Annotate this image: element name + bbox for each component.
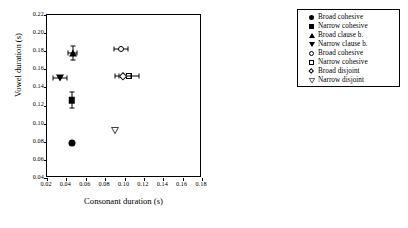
data-point-triangle-down-filled [56, 74, 64, 81]
x-axis-tick-labels: 0.020.040.060.080.100.120.140.160.18 [0, 181, 408, 193]
legend-item-label: Narrow cohesive [318, 23, 368, 30]
data-point-circle-open [118, 46, 124, 52]
legend-item: Broad cohesive [298, 49, 399, 58]
legend-item-label: Broad cohesive [318, 14, 363, 21]
x-error-cap [67, 75, 68, 80]
x-error-cap [128, 46, 129, 51]
square-filled-icon [305, 24, 318, 29]
square-open-icon [305, 60, 318, 65]
y-tick-mark [44, 33, 47, 34]
y-tick-label: 0.06 [33, 156, 44, 162]
plot-area [46, 14, 201, 177]
legend-item-label: Narrow cohesive [318, 59, 368, 66]
x-tick-label: 0.10 [118, 181, 129, 187]
x-tick-label: 0.18 [195, 181, 206, 187]
x-tick-mark [86, 178, 87, 181]
legend-item-label: Narrow clause b. [318, 41, 368, 48]
y-error-cap [70, 60, 75, 61]
x-tick-label: 0.14 [157, 181, 168, 187]
data-point-triangle-down-open [115, 131, 123, 138]
y-error-cap [69, 108, 74, 109]
triangle-up-filled-icon [305, 33, 318, 38]
legend-item: Narrow clause b. [298, 40, 399, 49]
x-axis-title: Consonant duration (s) [46, 196, 201, 206]
x-tick-label: 0.12 [137, 181, 148, 187]
x-tick-label: 0.06 [79, 181, 90, 187]
x-tick-label: 0.16 [176, 181, 187, 187]
legend-item: Broad clause b. [298, 31, 399, 40]
y-tick-mark [44, 160, 47, 161]
legend-item-label: Narrow disjoint [318, 77, 364, 84]
y-tick-mark [44, 124, 47, 125]
x-error-cap [77, 51, 78, 56]
x-tick-label: 0.08 [99, 181, 110, 187]
y-tick-label: 0.20 [33, 29, 44, 35]
legend-item-label: Broad disjoint [318, 68, 360, 75]
y-tick-label: 0.12 [33, 101, 44, 107]
x-tick-mark [163, 178, 164, 181]
x-error-cap [115, 74, 116, 79]
x-error-cap [113, 46, 114, 51]
y-tick-label: 0.18 [33, 47, 44, 53]
y-tick-label: 0.10 [33, 120, 44, 126]
y-tick-mark [44, 15, 47, 16]
circle-filled-icon [305, 15, 318, 21]
x-tick-mark [125, 178, 126, 181]
scatter-plot-figure: 0.040.060.080.100.120.140.160.180.200.22… [0, 0, 408, 228]
x-tick-mark [66, 178, 67, 181]
data-points-layer [47, 15, 200, 176]
data-point-circle-filled [68, 140, 75, 147]
y-tick-label: 0.16 [33, 65, 44, 71]
y-tick-label: 0.08 [33, 138, 44, 144]
x-tick-mark [202, 178, 203, 181]
y-tick-label: 0.14 [33, 83, 44, 89]
legend-item: Narrow cohesive [298, 22, 399, 31]
diamond-open-icon [305, 69, 318, 73]
y-axis-title: Vowel duration (s) [13, 0, 23, 135]
legend: Broad cohesiveNarrow cohesiveBroad claus… [297, 9, 400, 87]
legend-item: Broad disjoint [298, 67, 399, 76]
x-error-cap [139, 74, 140, 79]
x-tick-label: 0.02 [40, 181, 51, 187]
y-tick-mark [44, 87, 47, 88]
x-error-cap [52, 75, 53, 80]
x-tick-mark [183, 178, 184, 181]
x-tick-label: 0.04 [60, 181, 71, 187]
legend-item: Narrow disjoint [298, 76, 399, 85]
triangle-down-filled-icon [305, 42, 318, 47]
x-tick-mark [144, 178, 145, 181]
legend-item-label: Broad clause b. [318, 32, 363, 39]
circle-open-icon [305, 51, 318, 56]
y-tick-mark [44, 142, 47, 143]
x-tick-mark [47, 178, 48, 181]
x-tick-mark [105, 178, 106, 181]
y-tick-label: 0.22 [33, 11, 44, 17]
data-point-diamond-open [120, 73, 126, 79]
legend-item-label: Broad cohesive [318, 50, 363, 57]
x-error-cap [130, 74, 131, 79]
y-tick-mark [44, 69, 47, 70]
data-point-square-filled [68, 97, 75, 104]
y-error-cap [69, 92, 74, 93]
y-tick-mark [44, 51, 47, 52]
y-error-cap [70, 45, 75, 46]
triangle-down-open-icon [305, 78, 318, 84]
legend-item: Broad cohesive [298, 13, 399, 22]
data-point-triangle-up-filled [69, 50, 77, 57]
legend-item: Narrow cohesive [298, 58, 399, 67]
y-tick-mark [44, 106, 47, 107]
